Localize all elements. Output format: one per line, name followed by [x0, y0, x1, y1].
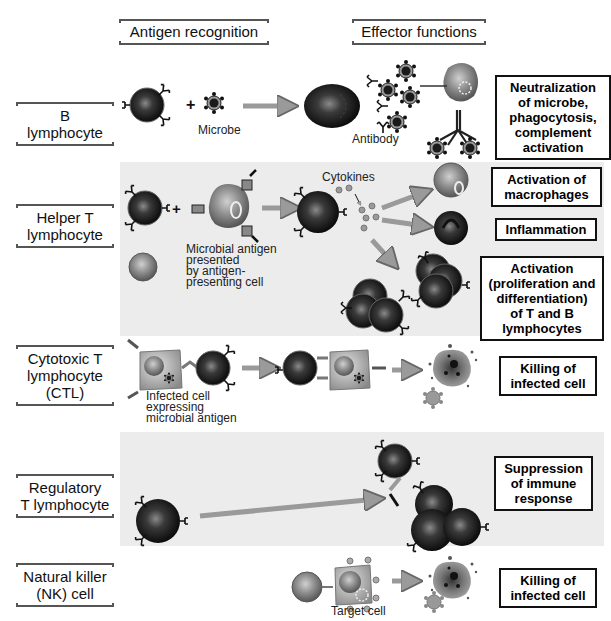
outcome-line: phagocytosis,	[501, 110, 605, 125]
regulatory-t-cell	[134, 495, 188, 547]
phagocyte-cell	[443, 63, 478, 102]
cytokine-dots	[336, 185, 379, 231]
outcome-killing-ctl: Killing of infected cell	[499, 356, 597, 396]
ctl-cell	[182, 344, 236, 392]
caption-cytokines: Cytokines	[322, 171, 375, 183]
suppressed-lymphocytes	[406, 481, 489, 553]
outcome-line: Activation	[486, 261, 598, 276]
caption-antibody: Antibody	[352, 133, 399, 145]
responding-t-cell	[374, 439, 420, 483]
nk-cell	[292, 572, 333, 602]
outcome-line: lymphocytes	[486, 321, 598, 336]
caption-target-cell: Target cell	[331, 605, 386, 617]
helper-t-cell	[124, 184, 170, 232]
caption-line: presenting cell	[186, 277, 277, 288]
proliferating-lymphocytes-left	[341, 279, 411, 336]
outcome-activation-macrophages: Activation of macrophages	[491, 167, 602, 207]
outcome-line: activation	[501, 140, 605, 155]
inhibition-bar	[390, 494, 398, 506]
outcome-line: Killing of	[505, 573, 591, 588]
svg-text:+: +	[186, 96, 195, 113]
outcome-line: differentiation)	[486, 291, 598, 306]
ctl-bound-cell	[275, 350, 386, 390]
outcome-suppression: Suppression of immune response	[494, 456, 593, 511]
outcome-line: macrophages	[497, 187, 596, 202]
outcome-killing-nk: Killing of infected cell	[499, 568, 597, 608]
outcome-line: of immune	[500, 476, 587, 491]
caption-antigen: Microbial antigen presented by antigen- …	[186, 244, 277, 288]
outcome-line: complement	[501, 125, 605, 140]
outcome-line: Suppression	[500, 461, 587, 476]
outcome-inflammation: Inflammation	[495, 218, 597, 241]
macrophage-cell	[434, 163, 468, 197]
antigen-presenting-cell	[192, 170, 258, 242]
outcome-line: of microbe,	[501, 95, 605, 110]
outcome-line: infected cell	[505, 588, 591, 603]
outcome-neutralization: Neutralization of microbe, phagocytosis,…	[495, 75, 611, 160]
outcome-line: of T and B	[486, 306, 598, 321]
outcome-line: Neutralization	[501, 80, 605, 95]
plasma-cell	[304, 84, 360, 128]
b-lymphocyte-cell	[122, 83, 171, 127]
inflammation-cell	[434, 211, 468, 245]
outcome-line: Inflammation	[500, 222, 592, 237]
svg-text:+: +	[172, 200, 181, 217]
caption-microbe: Microbe	[198, 124, 241, 136]
activated-helper-t-cell	[293, 186, 347, 238]
killed-cell	[429, 344, 478, 387]
microbe-icon	[204, 92, 224, 114]
outcome-activation-lymphocytes: Activation (proliferation and differenti…	[480, 256, 604, 341]
outcome-line: infected cell	[505, 376, 591, 391]
proliferating-lymphocytes-right	[410, 251, 470, 308]
caption-infected-cell: Infected cell expressing microbial antig…	[146, 391, 237, 424]
outcome-line: Killing of	[505, 361, 591, 376]
caption-line: microbial antigen	[146, 413, 237, 424]
outcome-line: response	[500, 491, 587, 506]
outcome-line: Activation of	[497, 172, 596, 187]
outcome-line: (proliferation and	[486, 276, 598, 291]
naive-t-cell	[129, 253, 157, 281]
